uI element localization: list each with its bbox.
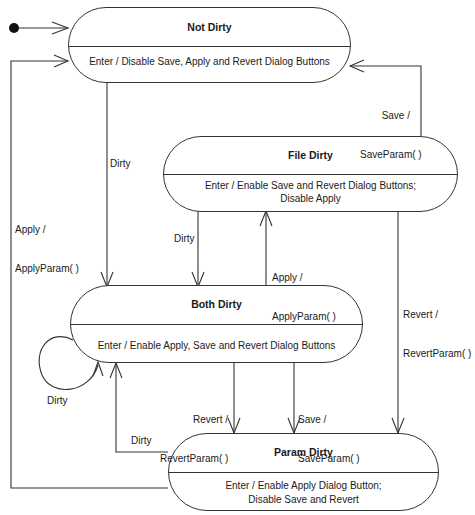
label-line: RevertParam( )	[160, 452, 228, 465]
label-line: ApplyParam( )	[15, 262, 79, 275]
label-apply-applyparam: Apply / ApplyParam( )	[15, 197, 79, 288]
label-dirty: Dirty	[110, 157, 131, 170]
state-action: Enter / Disable Save, Apply and Revert D…	[69, 55, 350, 69]
state-divider	[69, 46, 350, 47]
label-line: ApplyParam( )	[272, 310, 336, 323]
label-line: RevertParam( )	[403, 347, 471, 360]
state-file-dirty: File Dirty Enter / Enable Save and Rever…	[163, 136, 458, 212]
state-action-line2: Disable Apply	[164, 192, 457, 206]
label-line: SaveParam( )	[360, 148, 410, 161]
label-dirty: Dirty	[174, 232, 195, 245]
label-revert-revertparam: Revert / RevertParam( )	[160, 387, 228, 478]
label-save-saveparam: Save / SaveParam( )	[298, 387, 360, 478]
state-action: Enter / Enable Apply, Save and Revert Di…	[71, 339, 362, 353]
label-line: Apply /	[15, 223, 79, 236]
label-revert-revertparam: Revert / RevertParam( )	[403, 282, 471, 373]
label-dirty: Dirty	[47, 394, 68, 407]
label-line: Revert /	[403, 308, 471, 321]
label-dirty: Dirty	[131, 434, 152, 447]
label-line: Apply /	[272, 271, 336, 284]
label-line: SaveParam( )	[298, 452, 360, 465]
state-not-dirty: Not Dirty Enter / Disable Save, Apply an…	[68, 7, 351, 83]
state-action-line2: Disable Save and Revert	[169, 493, 438, 507]
initial-state-dot	[9, 23, 19, 33]
label-line: Revert /	[160, 413, 228, 426]
state-action-line1: Enter / Enable Save and Revert Dialog Bu…	[164, 179, 457, 193]
label-line: Save /	[298, 413, 360, 426]
label-save-saveparam: Save / SaveParam( )	[360, 83, 410, 174]
label-apply-applyparam: Apply / ApplyParam( )	[272, 245, 336, 336]
state-name: Not Dirty	[69, 21, 350, 33]
label-line: Save /	[360, 109, 410, 122]
state-divider	[164, 174, 457, 175]
state-action-line1: Enter / Enable Apply Dialog Button;	[169, 479, 438, 493]
